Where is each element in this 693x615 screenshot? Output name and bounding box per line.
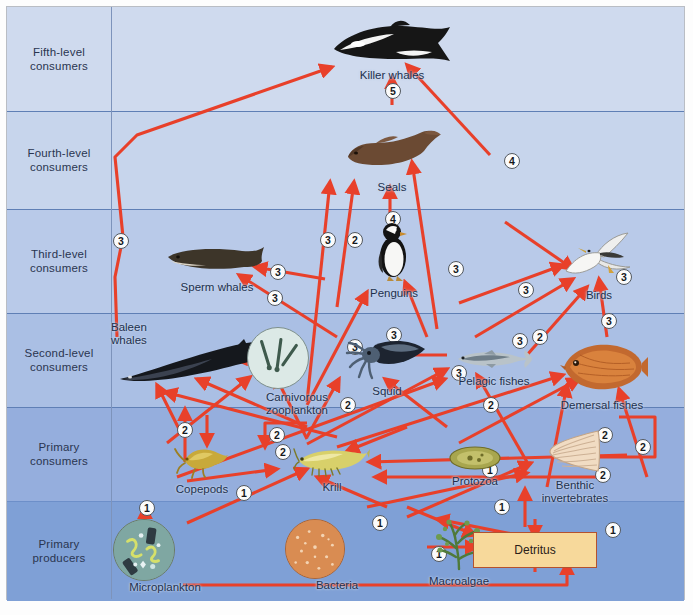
link-badge: 5: [385, 83, 401, 99]
link-badge: 3: [320, 232, 336, 248]
link-badge: 1: [139, 500, 155, 516]
organism-label: Benthic invertebrates: [531, 479, 619, 505]
organism-sperm-whales[interactable]: Sperm whales: [147, 245, 287, 294]
copepod-icon: [147, 441, 257, 483]
organism-copepods[interactable]: Copepods: [147, 441, 257, 496]
organism-microplankton[interactable]: Microplankton: [113, 519, 217, 594]
organism-benthic-invertebrates[interactable]: Benthic invertebrates: [523, 427, 627, 505]
link-badge: 2: [635, 439, 651, 455]
organism-label: Killer whales: [307, 69, 477, 82]
krill-icon: [277, 443, 387, 481]
organism-label: Demersal fishes: [558, 399, 646, 412]
organism-krill[interactable]: Krill: [277, 443, 387, 494]
organism-killer-whales[interactable]: Killer whales: [307, 19, 477, 82]
organism-label: Seals: [332, 181, 452, 194]
penguin-icon: [352, 221, 436, 287]
pelagic-fish-icon: [439, 347, 549, 375]
organism-label: Microplankton: [113, 581, 217, 594]
organism-demersal-fishes[interactable]: Demersal fishes: [547, 337, 657, 412]
bird-icon: [547, 229, 651, 289]
organism-label: Krill: [277, 481, 387, 494]
organism-seals[interactable]: Seals: [332, 127, 452, 194]
carnivorous-zooplankton-icon: [247, 327, 347, 389]
organism-label: Penguins: [352, 287, 436, 300]
arrow-layer: [7, 7, 686, 601]
organism-label: Protozoa: [425, 475, 525, 488]
sperm-whale-icon: [147, 245, 287, 281]
organism-protozoa[interactable]: Protozoa: [425, 445, 525, 488]
bacteria-icon: [285, 519, 389, 579]
organism-label: Copepods: [147, 483, 257, 496]
organism-carnivorous-zooplankton[interactable]: Carnivorous zooplankton: [247, 327, 347, 417]
link-badge: 2: [532, 329, 548, 345]
organism-squid[interactable]: Squid: [337, 333, 437, 398]
detritus-box[interactable]: Detritus: [473, 532, 597, 568]
link-badge: 4: [504, 153, 520, 169]
link-badge: 3: [518, 282, 534, 298]
organism-label: Squid: [337, 385, 437, 398]
link-badge: 1: [494, 499, 510, 515]
organism-bacteria[interactable]: Bacteria: [285, 519, 389, 592]
organism-label: Birds: [547, 289, 651, 302]
seal-icon: [332, 127, 452, 181]
organism-birds[interactable]: Birds: [547, 229, 651, 302]
link-badge: 1: [605, 522, 621, 538]
link-badge: 2: [483, 397, 499, 413]
link-badge: 2: [269, 427, 285, 443]
link-badge: 3: [113, 233, 129, 249]
demersal-fish-icon: [547, 337, 657, 399]
organism-label: Bacteria: [285, 579, 389, 592]
organism-penguins[interactable]: Penguins: [352, 221, 436, 300]
link-badge: 2: [177, 422, 193, 438]
food-web-diagram: Fifth-level consumers Fourth-level consu…: [0, 0, 693, 615]
organism-label: Sperm whales: [147, 281, 287, 294]
organism-label: Macroalgae: [407, 575, 511, 588]
microplankton-icon: [113, 519, 217, 581]
organism-pelagic-fishes[interactable]: Pelagic fishes: [439, 347, 549, 388]
benthic-invertebrate-icon: [523, 427, 627, 479]
link-badge: 3: [448, 261, 464, 277]
organism-label: Pelagic fishes: [439, 375, 549, 388]
organism-label: Carnivorous zooplankton: [253, 391, 341, 417]
organism-label: Detritus: [514, 543, 555, 557]
killer-whale-icon: [307, 19, 477, 69]
squid-icon: [337, 333, 437, 385]
link-badge: 3: [601, 313, 617, 329]
diagram-frame: Fifth-level consumers Fourth-level consu…: [6, 6, 685, 600]
protozoa-icon: [425, 445, 525, 475]
